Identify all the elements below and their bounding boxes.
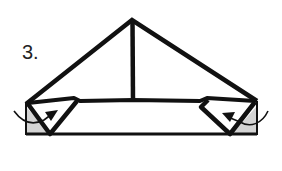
right-arrowhead-icon [222, 112, 235, 122]
left-arrowhead-icon [45, 110, 58, 121]
folding-illustration [0, 0, 282, 171]
band-top-edge [28, 98, 255, 103]
center-crease [133, 21, 134, 101]
origami-diagram: 3. [0, 0, 282, 171]
triangle-outline [26, 20, 257, 104]
